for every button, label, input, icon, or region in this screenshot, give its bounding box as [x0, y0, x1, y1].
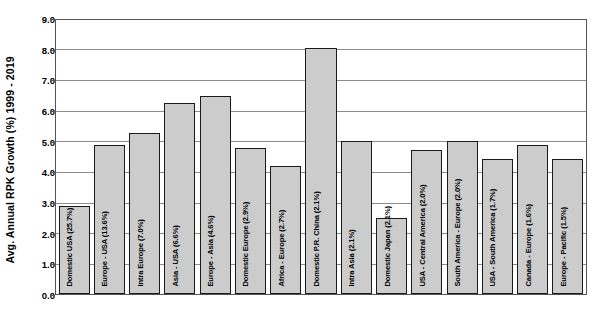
bar-category-label: Domestic USA (25.7%) [67, 248, 75, 319]
bar-category-label: Europe - Pacific (1.5%) [560, 247, 568, 319]
bar-category-label-text: South America - Europe (2.0%) [454, 179, 462, 287]
bar[interactable]: Intra Europe (7.0%) [129, 133, 160, 294]
bar-category-label: Domestic Japan (2.1%) [384, 247, 392, 319]
bar-category-label: USA - Central America (2.0%) [419, 236, 427, 319]
bar-slot: Europe - Pacific (1.5%) [550, 21, 585, 295]
bar[interactable]: Canada - Europe (1.6%) [517, 145, 548, 294]
bar-category-label-text: Africa - Europe (2.7%) [278, 210, 286, 287]
y-axis-ticks: 9.08.07.06.05.04.03.02.01.00.0 [0, 0, 55, 319]
bar-slot: Canada - Europe (1.6%) [515, 21, 550, 295]
bar-category-label: Intra Asia (2.1%) [349, 258, 357, 315]
bar[interactable]: Domestic Europe (2.9%) [235, 148, 266, 294]
bar-slot: Domestic Europe (2.9%) [233, 21, 268, 295]
bar-category-label-text: Domestic Japan (2.1%) [384, 206, 392, 287]
bar-category-label-text: Domestic Europe (2.9%) [243, 202, 251, 287]
bar-category-label-text: USA - South America (1.7%) [490, 189, 498, 287]
bar[interactable]: Domestic P.R. China (2.1%) [305, 48, 336, 294]
bar-slot: Intra Asia (2.1%) [339, 21, 374, 295]
bar-category-label-text: Europe - Asia (4.6%) [208, 216, 216, 287]
bar-category-label-text: Europe - USA (13.6%) [102, 212, 110, 287]
rpk-growth-bar-chart: Avg. Annual RPK Growth (%) 1999 - 2019 9… [0, 0, 599, 319]
bar-category-label-text: USA - Central America (2.0%) [419, 185, 427, 287]
bar[interactable]: Europe - Asia (4.6%) [200, 96, 231, 294]
bar-slot: Domestic Japan (2.1%) [374, 21, 409, 295]
bar-category-label-text: Intra Europe (7.0%) [137, 220, 145, 287]
bar-slot: USA - Central America (2.0%) [409, 21, 444, 295]
bar[interactable]: Domestic Japan (2.1%) [376, 218, 407, 294]
bar-category-label-text: Domestic P.R. China (2.1%) [313, 192, 321, 287]
bar[interactable]: Asia - USA (6.6%) [164, 103, 195, 294]
bar[interactable]: Intra Asia (2.1%) [341, 141, 372, 294]
bar-category-label-text: Europe - Pacific (1.5%) [560, 207, 568, 287]
bar-slot: USA - South America (1.7%) [480, 21, 515, 295]
bar[interactable]: Europe - USA (13.6%) [94, 145, 125, 294]
bar-category-label-text: Asia - USA (6.6%) [172, 226, 180, 287]
y-tick-mark [50, 295, 55, 296]
bar-slot: Domestic USA (25.7%) [57, 21, 92, 295]
bar-category-label: Europe - USA (13.6%) [102, 249, 110, 319]
bar-slot: Domestic P.R. China (2.1%) [303, 21, 338, 295]
bar[interactable]: USA - South America (1.7%) [482, 159, 513, 294]
bar-category-label-text: Canada - Europe (1.6%) [525, 204, 533, 287]
bar-category-label: USA - South America (1.7%) [490, 238, 498, 319]
bar-category-label: Asia - USA (6.6%) [172, 256, 180, 317]
bar-series: Domestic USA (25.7%)Europe - USA (13.6%)… [57, 21, 586, 295]
bar-slot: South America - Europe (2.0%) [444, 21, 479, 295]
bar-slot: Europe - Asia (4.6%) [198, 21, 233, 295]
bar[interactable]: Africa - Europe (2.7%) [270, 166, 301, 294]
bar[interactable]: Domestic USA (25.7%) [59, 206, 90, 294]
bar-category-label: Africa - Europe (2.7%) [278, 249, 286, 319]
bar-slot: Africa - Europe (2.7%) [268, 21, 303, 295]
bar-slot: Intra Europe (7.0%) [127, 21, 162, 295]
bar-slot: Europe - USA (13.6%) [92, 21, 127, 295]
bar[interactable]: Europe - Pacific (1.5%) [552, 159, 583, 294]
bar-category-label: South America - Europe (2.0%) [454, 233, 462, 319]
bar-category-label: Europe - Asia (4.6%) [208, 251, 216, 319]
bar[interactable]: USA - Central America (2.0%) [411, 150, 442, 294]
bar[interactable]: South America - Europe (2.0%) [447, 141, 478, 294]
bar-category-label: Intra Europe (7.0%) [137, 253, 145, 319]
bar-category-label-text: Intra Asia (2.1%) [349, 230, 357, 287]
bar-category-label-text: Domestic USA (25.7%) [67, 208, 75, 287]
bar-category-label: Domestic P.R. China (2.1%) [313, 239, 321, 319]
bar-category-label: Domestic Europe (2.9%) [243, 245, 251, 319]
bar-slot: Asia - USA (6.6%) [162, 21, 197, 295]
bar-category-label: Canada - Europe (1.6%) [525, 246, 533, 319]
